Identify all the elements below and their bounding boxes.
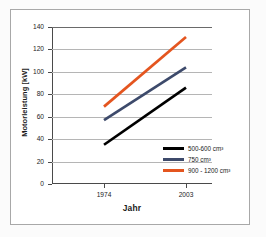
y-tick-label: 80: [18, 90, 44, 97]
legend-swatch-2: [163, 158, 184, 161]
series-line-2: [104, 67, 186, 120]
legend-label: 500-600 cm³: [188, 145, 223, 152]
x-tick-mark: [104, 184, 105, 188]
y-tick-mark: [48, 72, 52, 73]
y-tick-label: 40: [18, 135, 44, 142]
y-tick-label: 140: [18, 23, 44, 30]
chart-legend: 500-600 cm³750 cm³900 - 1200 cm³: [163, 143, 233, 176]
y-tick-mark: [48, 49, 52, 50]
legend-item: 900 - 1200 cm³: [163, 165, 233, 176]
y-tick-label: 60: [18, 113, 44, 120]
y-tick-label: 120: [18, 45, 44, 52]
x-tick-mark: [186, 184, 187, 188]
screenshot-page: Motorleistung [kW] 500-600 cm³750 cm³900…: [0, 0, 266, 237]
legend-item: 500-600 cm³: [163, 143, 233, 154]
y-tick-label: 0: [18, 180, 44, 187]
x-axis-title: Jahr: [52, 203, 212, 213]
legend-swatch-3: [163, 169, 184, 172]
x-tick-label: 1974: [84, 191, 124, 198]
y-tick-label: 20: [18, 158, 44, 165]
legend-item: 750 cm³: [163, 154, 233, 165]
y-tick-mark: [48, 162, 52, 163]
y-tick-mark: [48, 139, 52, 140]
y-tick-mark: [48, 117, 52, 118]
legend-swatch-1: [163, 147, 184, 150]
legend-label: 750 cm³: [188, 156, 211, 163]
y-tick-mark: [48, 27, 52, 28]
line-chart: Motorleistung [kW] 500-600 cm³750 cm³900…: [0, 0, 266, 237]
plot-area: 500-600 cm³750 cm³900 - 1200 cm³: [52, 27, 212, 184]
y-tick-label: 100: [18, 68, 44, 75]
y-tick-mark: [48, 94, 52, 95]
legend-label: 900 - 1200 cm³: [188, 167, 230, 174]
x-tick-label: 2003: [166, 191, 206, 198]
y-tick-mark: [48, 184, 52, 185]
